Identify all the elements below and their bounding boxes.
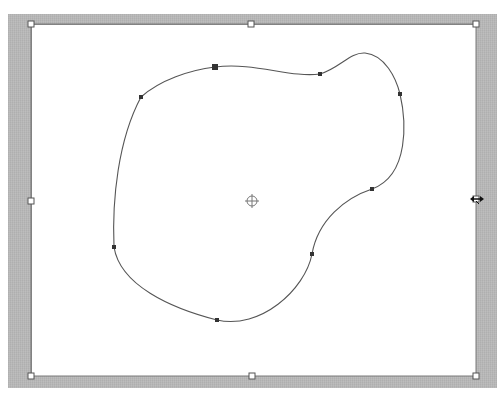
path-editor-overlay[interactable] xyxy=(0,0,502,400)
transform-handles[interactable] xyxy=(28,21,479,379)
anchor-point[interactable] xyxy=(318,72,322,76)
handle-bottom-center[interactable] xyxy=(249,373,255,379)
anchor-point[interactable] xyxy=(398,92,402,96)
anchor-point-selected[interactable] xyxy=(212,64,218,70)
anchor-point[interactable] xyxy=(370,187,374,191)
anchor-point[interactable] xyxy=(215,318,219,322)
crosshair-icon[interactable] xyxy=(245,194,259,208)
anchor-point[interactable] xyxy=(310,252,314,256)
handle-top-center[interactable] xyxy=(248,21,254,27)
bounding-box-outline xyxy=(31,24,476,376)
handle-top-left[interactable] xyxy=(28,21,34,27)
handle-top-right[interactable] xyxy=(473,21,479,27)
shape-path[interactable] xyxy=(114,53,404,322)
anchor-point[interactable] xyxy=(112,245,116,249)
anchor-point[interactable] xyxy=(139,95,143,99)
handle-bottom-left[interactable] xyxy=(28,373,34,379)
anchor-points[interactable] xyxy=(112,64,402,322)
handle-middle-left[interactable] xyxy=(28,198,34,204)
handle-bottom-right[interactable] xyxy=(473,373,479,379)
